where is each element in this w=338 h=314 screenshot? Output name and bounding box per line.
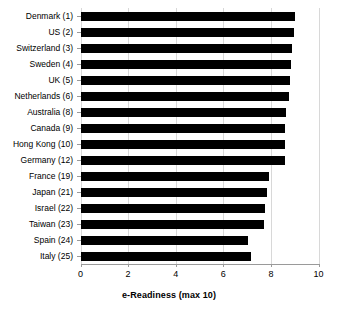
y-axis-tick (77, 144, 81, 145)
x-axis-title: e-Readiness (max 10) (0, 290, 338, 300)
plot-area (81, 8, 319, 264)
y-axis-tick (77, 208, 81, 209)
bar (81, 28, 294, 37)
y-axis-tick (77, 192, 81, 193)
bar (81, 108, 287, 117)
bar-row (81, 40, 319, 56)
x-axis-tick-label: 0 (66, 269, 96, 280)
x-axis-tick (128, 264, 129, 267)
y-axis-tick (77, 128, 81, 129)
bar-row (81, 56, 319, 72)
bar-row (81, 136, 319, 152)
bar-row (81, 104, 319, 120)
category-label: Denmark (1) (0, 8, 76, 24)
y-axis-tick (77, 176, 81, 177)
bar (81, 236, 249, 245)
x-axis-tick (176, 264, 177, 267)
bar-rows (81, 8, 319, 264)
category-label: Japan (21) (0, 184, 76, 200)
category-label: France (19) (0, 168, 76, 184)
x-axis-tick (223, 264, 224, 267)
category-label: UK (5) (0, 72, 76, 88)
y-axis-tick (77, 256, 81, 257)
y-axis-tick (77, 112, 81, 113)
x-axis-tick-label: 2 (113, 269, 143, 280)
category-label: Italy (25) (0, 248, 76, 264)
y-axis-tick (77, 32, 81, 33)
x-axis-tick (81, 264, 82, 267)
bar (81, 156, 286, 165)
x-axis-tick-label: 10 (304, 269, 334, 280)
bar-row (81, 8, 319, 24)
category-label: Switzerland (3) (0, 40, 76, 56)
bar (81, 172, 269, 181)
bar-row (81, 216, 319, 232)
category-label: Hong Kong (10) (0, 136, 76, 152)
y-axis-tick (77, 240, 81, 241)
y-axis-tick (77, 96, 81, 97)
bar (81, 140, 286, 149)
bar (81, 124, 286, 133)
bar-row (81, 120, 319, 136)
y-axis-tick (77, 16, 81, 17)
y-axis-tick (77, 48, 81, 49)
bar (81, 44, 293, 53)
x-axis-tick-label: 4 (161, 269, 191, 280)
bar-row (81, 200, 319, 216)
gridline-10 (319, 8, 320, 264)
bar-row (81, 152, 319, 168)
x-axis-tick-label: 6 (208, 269, 238, 280)
bar (81, 76, 290, 85)
bar (81, 220, 264, 229)
category-label: Spain (24) (0, 232, 76, 248)
bar-row (81, 72, 319, 88)
y-axis-tick (77, 64, 81, 65)
category-axis-labels: Denmark (1)US (2)Switzerland (3)Sweden (… (0, 8, 76, 264)
y-axis-tick (77, 224, 81, 225)
bar-row (81, 232, 319, 248)
y-axis-tick (77, 160, 81, 161)
bar-row (81, 168, 319, 184)
category-label: Taiwan (23) (0, 216, 76, 232)
bar-row (81, 248, 319, 264)
bar (81, 204, 265, 213)
bar (81, 12, 295, 21)
x-axis-tick (319, 264, 320, 267)
category-label: Netherlands (6) (0, 88, 76, 104)
bar-row (81, 184, 319, 200)
bar-row (81, 88, 319, 104)
x-axis-line (81, 264, 319, 265)
bar-row (81, 24, 319, 40)
y-axis-tick (77, 80, 81, 81)
bar (81, 60, 292, 69)
category-label: Sweden (4) (0, 56, 76, 72)
ereadiness-bar-chart: Denmark (1)US (2)Switzerland (3)Sweden (… (0, 0, 338, 314)
category-label: Australia (8) (0, 104, 76, 120)
category-label: US (2) (0, 24, 76, 40)
bar (81, 252, 251, 261)
category-label: Israel (22) (0, 200, 76, 216)
category-label: Germany (12) (0, 152, 76, 168)
x-axis-tick-label: 8 (256, 269, 286, 280)
bar (81, 92, 289, 101)
x-axis-tick (271, 264, 272, 267)
bar (81, 188, 268, 197)
category-label: Canada (9) (0, 120, 76, 136)
